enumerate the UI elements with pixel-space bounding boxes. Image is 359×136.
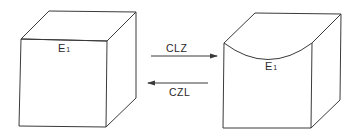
left-cube: E1: [19, 11, 136, 127]
arrow-label-clz: CLZ: [166, 42, 187, 54]
diagram-canvas: E1 CLZ CZL E1: [0, 0, 359, 136]
right-cube: E1: [223, 13, 341, 128]
arrow-label-czl: CZL: [169, 86, 190, 98]
transition-arrows: CLZ CZL: [148, 42, 217, 98]
